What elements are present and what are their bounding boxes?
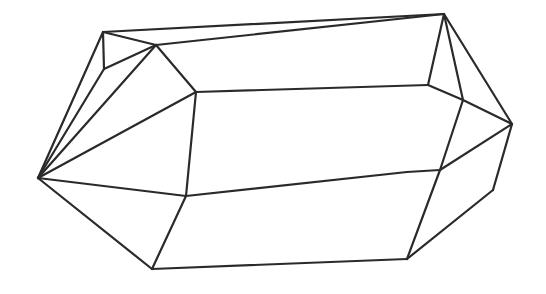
edge-C-L [38, 69, 104, 178]
edge-K-J [186, 172, 407, 196]
edge-A-L [38, 32, 103, 178]
edge-F-G [428, 85, 463, 100]
edge-J-I [407, 170, 440, 172]
edge-L-K [38, 178, 186, 196]
edge-B-L [38, 45, 156, 178]
edge-B-E [156, 14, 444, 45]
crystal-drawing [0, 0, 546, 294]
edge-F-E [428, 14, 444, 85]
edge-A-C [103, 32, 104, 69]
edge-C-B [104, 45, 156, 69]
edge-D-F [196, 85, 428, 92]
edge-L-M [38, 178, 152, 269]
edge-D-K [186, 92, 196, 196]
edge-K-M [152, 196, 186, 269]
edge-M-N [152, 259, 407, 269]
edge-A-B [103, 32, 156, 45]
edge-E-G [444, 14, 463, 100]
edge-D-L [38, 92, 196, 178]
crystal-polyhedron-figure [0, 0, 546, 294]
edge-B-D [156, 45, 196, 92]
edge-G-I [440, 100, 463, 170]
edge-A-E [103, 14, 444, 32]
